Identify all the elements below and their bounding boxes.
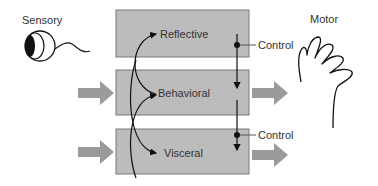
control-node-bottom (234, 132, 240, 138)
sensory-label: Sensory (22, 14, 63, 26)
motor-label: Motor (310, 13, 338, 25)
behavioral-label: Behavioral (158, 87, 210, 99)
visceral-label: Visceral (164, 147, 203, 159)
control-node-top (234, 42, 240, 48)
emotion-levels-diagram: Reflective Behavioral Visceral Control C… (0, 0, 378, 186)
control-label-bottom: Control (258, 129, 293, 141)
eye-icon (25, 31, 90, 61)
output-arrow-visceral (252, 143, 288, 167)
control-label-top: Control (258, 39, 293, 51)
reflective-label: Reflective (160, 28, 208, 40)
input-arrow-behavioral (78, 81, 114, 105)
input-arrow-visceral (78, 140, 114, 164)
hand-icon (299, 37, 353, 128)
output-arrow-behavioral (252, 81, 288, 105)
